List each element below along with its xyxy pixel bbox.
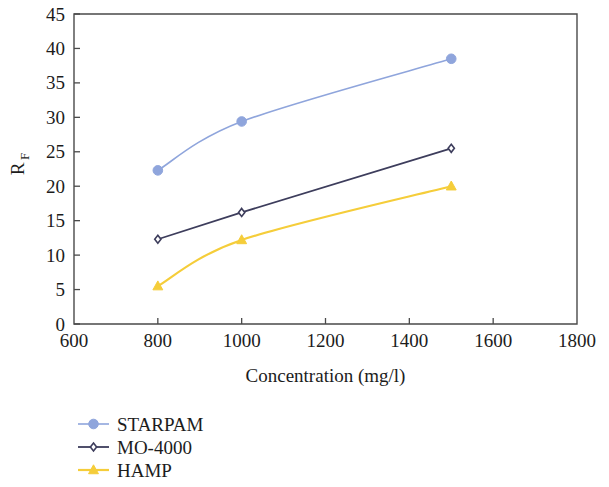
y-tick-label: 35 [46, 72, 65, 93]
x-tick-label: 600 [60, 330, 89, 351]
y-tick-label: 10 [46, 245, 65, 266]
x-tick-label: 1200 [307, 330, 345, 351]
x-axis-title: Concentration (mg/l) [246, 365, 406, 387]
chart-background [0, 0, 609, 487]
y-tick-label: 5 [56, 279, 66, 300]
line-chart: 051015202530354045 600800100012001400160… [0, 0, 609, 487]
y-axis-title-base: R [7, 162, 28, 175]
data-point-marker [237, 117, 247, 127]
x-tick-label: 800 [144, 330, 173, 351]
legend-label: STARPAM [117, 414, 204, 435]
y-tick-label: 40 [46, 38, 65, 59]
y-tick-label: 20 [46, 176, 65, 197]
x-tick-label: 1600 [474, 330, 512, 351]
y-tick-label: 25 [46, 141, 65, 162]
x-tick-label: 1400 [390, 330, 428, 351]
data-point-marker [446, 54, 456, 64]
data-point-marker [153, 166, 163, 176]
legend-label: HAMP [117, 460, 172, 481]
legend-label: MO-4000 [117, 437, 192, 458]
y-axis-title-subscript: F [17, 153, 32, 160]
y-tick-label: 45 [46, 4, 65, 25]
x-axis-title-label: Concentration (mg/l) [246, 365, 406, 387]
y-tick-label: 15 [46, 210, 65, 231]
x-tick-label: 1000 [223, 330, 261, 351]
data-point-marker [89, 419, 99, 429]
y-tick-label: 30 [46, 107, 65, 128]
x-tick-label: 1800 [558, 330, 596, 351]
chart-figure: 051015202530354045 600800100012001400160… [0, 0, 609, 487]
